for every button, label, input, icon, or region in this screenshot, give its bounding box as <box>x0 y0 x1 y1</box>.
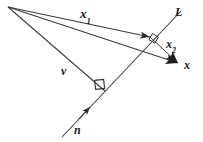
vector-x1 <box>8 7 150 37</box>
vector-n-arrowhead <box>79 107 90 119</box>
label-L: L <box>175 6 182 18</box>
label-x1: x1 <box>80 7 91 23</box>
vector-x <box>8 7 178 63</box>
right-angle-marker-L <box>149 34 159 44</box>
label-x: x <box>184 59 190 71</box>
right-angle-marker-v <box>95 79 105 89</box>
label-n: n <box>74 124 81 136</box>
diagram-canvas <box>0 0 203 142</box>
label-x2: x2 <box>166 38 176 53</box>
label-v: v <box>61 65 66 77</box>
vector-diagram: x1 x2 x L v n <box>0 0 203 142</box>
